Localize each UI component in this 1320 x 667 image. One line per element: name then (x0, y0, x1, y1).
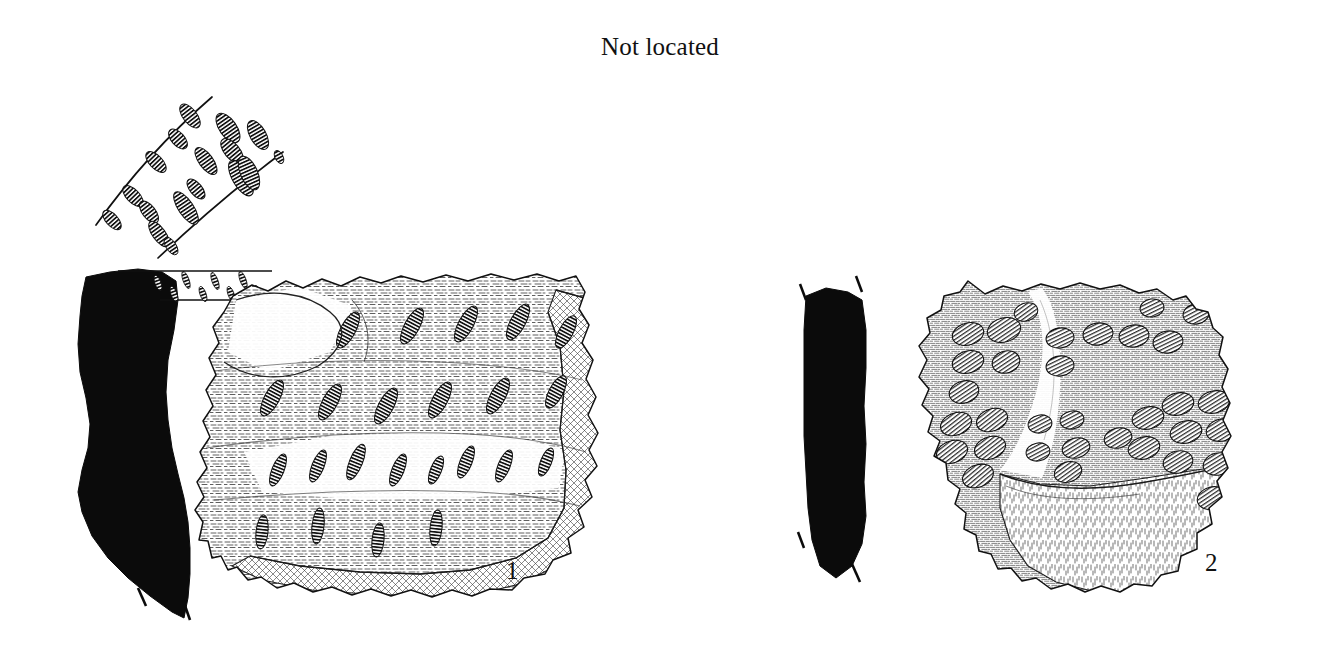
figure-2-section-profile (798, 276, 866, 582)
detail-impression-cluster (100, 101, 286, 257)
figure-1-decorated-sherd-face (190, 270, 610, 610)
drawing-canvas (0, 0, 1320, 667)
figure-2-group (798, 270, 1250, 610)
figure-1-enlarged-decoration-detail (96, 97, 286, 258)
figure-label-1: 1 (506, 558, 519, 584)
figure-1-group (78, 97, 610, 620)
figure-label-2: 2 (1205, 550, 1218, 576)
figure-2-decorated-sherd-face (900, 270, 1250, 610)
figure-1-section-profile (78, 269, 190, 620)
illustration-plate: Not located (0, 0, 1320, 667)
